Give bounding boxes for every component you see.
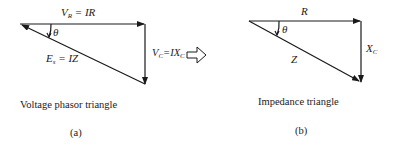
- es-vector: [22, 25, 145, 84]
- caption-a: Voltage phasor triangle: [20, 99, 117, 110]
- sublabel-b: (b): [295, 125, 307, 136]
- z-label: Z: [291, 53, 297, 65]
- r-label: R: [301, 5, 308, 17]
- theta-label: θ: [53, 26, 58, 38]
- vr-label: VR = IR: [61, 6, 95, 20]
- voltage-phasor-triangle: [20, 24, 145, 84]
- caption-b: Impedance triangle: [258, 96, 339, 107]
- xc-label: XC: [366, 42, 377, 56]
- transform-arrow-icon: [187, 47, 206, 63]
- z-vector: [249, 21, 359, 81]
- theta-label: θ: [282, 23, 287, 35]
- phasor-diagrams: [0, 0, 397, 150]
- es-label: Es = IZ: [46, 52, 78, 66]
- sublabel-a: (a): [70, 127, 82, 138]
- vc-label: VC=IXC: [152, 47, 185, 60]
- impedance-triangle: [249, 21, 361, 82]
